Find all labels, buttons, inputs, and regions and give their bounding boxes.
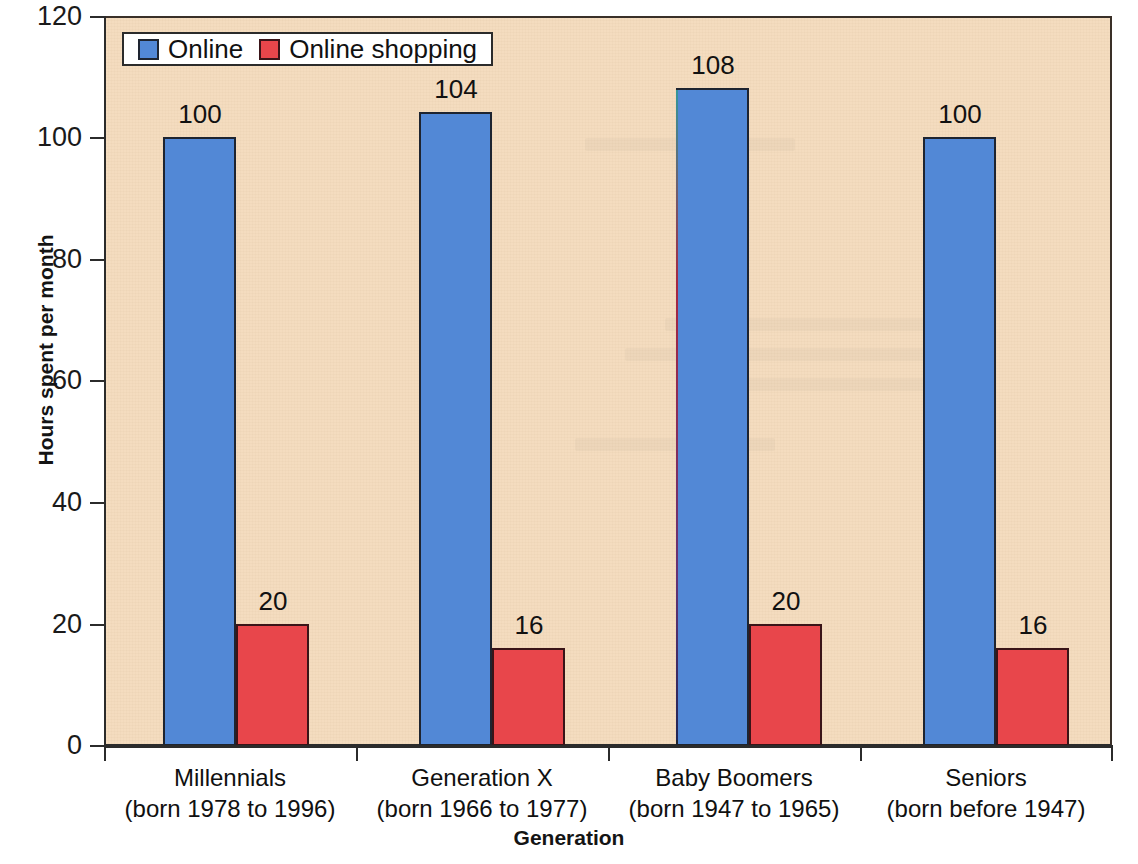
x-category-label-baby-boomers: Baby Boomers (born 1947 to 1965) bbox=[608, 762, 860, 824]
x-category-years-millennials: (born 1978 to 1996) bbox=[104, 793, 356, 824]
bar-online-millennials bbox=[163, 137, 236, 746]
x-tick-3 bbox=[860, 746, 862, 761]
y-tick-20 bbox=[90, 624, 105, 626]
x-category-years-seniors: (born before 1947) bbox=[860, 793, 1112, 824]
legend-label-online-shopping: Online shopping bbox=[289, 36, 477, 62]
x-category-label-millennials: Millennials (born 1978 to 1996) bbox=[104, 762, 356, 824]
bar-value-shopping-baby-boomers: 20 bbox=[736, 588, 836, 614]
bar-value-online-baby-boomers: 108 bbox=[663, 52, 763, 78]
bar-value-online-seniors: 100 bbox=[910, 101, 1010, 127]
x-category-name-generation-x: Generation X bbox=[356, 762, 608, 793]
bar-value-shopping-generation-x: 16 bbox=[479, 612, 579, 638]
x-category-name-baby-boomers: Baby Boomers bbox=[608, 762, 860, 793]
x-tick-0 bbox=[104, 746, 106, 761]
x-category-label-seniors: Seniors (born before 1947) bbox=[860, 762, 1112, 824]
bar-shopping-baby-boomers bbox=[749, 624, 822, 746]
bar-shopping-generation-x bbox=[492, 648, 565, 746]
bar-shopping-millennials bbox=[236, 624, 309, 746]
x-category-years-generation-x: (born 1966 to 1977) bbox=[356, 793, 608, 824]
y-tick-60 bbox=[90, 380, 105, 382]
legend-entry-online: Online bbox=[138, 36, 243, 62]
y-tick-0 bbox=[90, 745, 105, 747]
x-axis-title: Generation bbox=[0, 826, 1138, 850]
y-tick-label-0: 0 bbox=[67, 732, 82, 759]
bar-online-baby-boomers bbox=[676, 88, 749, 746]
y-tick-120 bbox=[90, 16, 105, 18]
x-tick-1 bbox=[356, 746, 358, 761]
bar-value-online-millennials: 100 bbox=[150, 101, 250, 127]
x-category-label-generation-x: Generation X (born 1966 to 1977) bbox=[356, 762, 608, 824]
y-tick-80 bbox=[90, 259, 105, 261]
y-tick-label-100: 100 bbox=[37, 124, 82, 151]
bar-value-shopping-millennials: 20 bbox=[223, 588, 323, 614]
y-axis-title: Hours spent per month bbox=[34, 200, 58, 500]
bar-value-shopping-seniors: 16 bbox=[983, 612, 1083, 638]
bar-shopping-seniors bbox=[996, 648, 1069, 746]
y-tick-label-20: 20 bbox=[52, 611, 82, 638]
x-tick-2 bbox=[608, 746, 610, 761]
x-tick-4 bbox=[1111, 746, 1113, 761]
bar-online-generation-x bbox=[419, 112, 492, 746]
legend-swatch-online-icon bbox=[138, 39, 159, 60]
x-category-name-millennials: Millennials bbox=[104, 762, 356, 793]
bar-value-online-generation-x: 104 bbox=[406, 76, 506, 102]
y-tick-label-120: 120 bbox=[37, 3, 82, 30]
legend-swatch-online-shopping-icon bbox=[259, 39, 280, 60]
legend-label-online: Online bbox=[168, 36, 243, 62]
x-category-name-seniors: Seniors bbox=[860, 762, 1112, 793]
x-category-years-baby-boomers: (born 1947 to 1965) bbox=[608, 793, 860, 824]
bar-online-seniors bbox=[923, 137, 996, 746]
y-tick-100 bbox=[90, 137, 105, 139]
y-axis-line bbox=[104, 16, 106, 748]
y-tick-40 bbox=[90, 502, 105, 504]
legend: Online Online shopping bbox=[122, 32, 493, 66]
bar-chart: 120 100 80 60 40 20 0 Hours spent per mo… bbox=[0, 0, 1138, 864]
legend-entry-online-shopping: Online shopping bbox=[259, 36, 477, 62]
